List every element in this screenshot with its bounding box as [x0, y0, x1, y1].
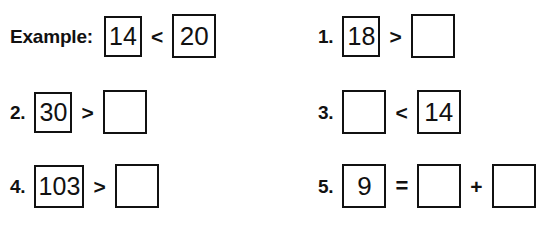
answer-box-empty[interactable]: [342, 90, 386, 134]
answer-box[interactable]: 103: [34, 165, 84, 208]
problem-label: Example:: [10, 27, 93, 46]
comparison-operator: >: [93, 176, 105, 197]
comparison-operator: >: [81, 102, 93, 123]
equals-operator: =: [395, 175, 408, 197]
plus-operator: +: [470, 176, 482, 197]
answer-box[interactable]: 14: [417, 90, 461, 134]
comparison-operator: <: [395, 102, 407, 123]
answer-box-empty[interactable]: [115, 164, 159, 208]
comparison-operator: >: [389, 26, 401, 47]
problem-label: 1.: [318, 27, 333, 46]
answer-box-empty[interactable]: [417, 164, 461, 208]
worksheet: Example: 14 < 20 1. 18 > 2. 30 > 3. < 14…: [0, 0, 556, 229]
answer-box[interactable]: 30: [34, 92, 72, 133]
problem-label: 4.: [10, 177, 25, 196]
answer-box-empty[interactable]: [492, 164, 536, 208]
problem-example: Example: 14 < 20: [10, 14, 216, 58]
answer-box-empty[interactable]: [103, 90, 147, 134]
problem-1: 1. 18 >: [318, 14, 455, 58]
answer-box[interactable]: 14: [104, 16, 142, 57]
comparison-operator: <: [151, 26, 163, 47]
problem-label: 2.: [10, 103, 25, 122]
answer-box[interactable]: 9: [342, 164, 386, 208]
answer-box[interactable]: 18: [342, 16, 380, 57]
problem-3: 3. < 14: [318, 90, 461, 134]
answer-box-empty[interactable]: [411, 14, 455, 58]
problem-label: 3.: [318, 103, 333, 122]
problem-4: 4. 103 >: [10, 164, 159, 208]
problem-5: 5. 9 = +: [318, 164, 536, 208]
problem-2: 2. 30 >: [10, 90, 147, 134]
problem-label: 5.: [318, 177, 333, 196]
answer-box[interactable]: 20: [172, 14, 216, 58]
